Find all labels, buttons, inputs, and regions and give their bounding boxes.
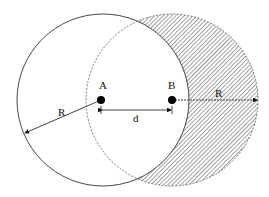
hatched-crescent [0, 0, 269, 197]
radius-a-label: R [58, 106, 66, 118]
label-a: A [99, 79, 107, 91]
distance-label: d [133, 112, 139, 124]
two-circle-overlap-diagram: A B R R d [0, 0, 269, 197]
radius-b-label: R [215, 87, 223, 99]
label-b: B [168, 79, 175, 91]
